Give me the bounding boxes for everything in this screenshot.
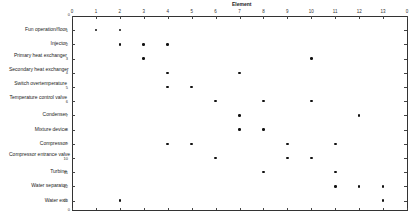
y-tick-mark [72, 201, 75, 202]
row-label-text: Temperature control valve [9, 95, 67, 101]
x-tick-label: 9 [280, 9, 294, 14]
data-point [262, 171, 265, 174]
x-bottom-tick-mark [120, 208, 121, 210]
x-tick-label: 12 [352, 9, 366, 14]
data-point [166, 72, 169, 75]
y-right-tick-mark [404, 172, 407, 173]
x-bottom-tick-mark [263, 208, 264, 210]
row-label-text: Primary heat exchanger [9, 53, 67, 59]
x-tick-label: 13 [376, 9, 390, 14]
data-point [310, 100, 313, 103]
x-tick-mark [263, 16, 264, 19]
row-label: Secondary heat exchanger [9, 67, 67, 73]
data-point [119, 29, 122, 32]
data-point [119, 199, 122, 202]
data-point [142, 43, 145, 46]
dependency-scatter-chart: Element 0123456789101112130 Fun operatio… [0, 0, 411, 218]
data-point [214, 100, 217, 103]
row-index: 2 [60, 42, 68, 47]
x-bottom-tick-mark [192, 208, 193, 210]
row-index: 8 [60, 127, 68, 132]
y-top-label: 0 [62, 12, 70, 17]
x-tick-mark [216, 16, 217, 19]
x-tick-label: 7 [233, 9, 247, 14]
data-point [95, 29, 98, 32]
row-label-text: Secondary heat exchanger [9, 67, 67, 73]
data-point [334, 171, 337, 174]
data-point [334, 143, 337, 146]
y-right-tick-mark [404, 201, 407, 202]
row-label: Compressor entrance valve [9, 152, 67, 158]
data-point [166, 143, 169, 146]
y-tick-mark [72, 172, 75, 173]
y-tick-mark [72, 144, 75, 145]
row-index: 11 [60, 170, 68, 175]
y-right-tick-mark [404, 130, 407, 131]
x-bottom-tick-mark [359, 208, 360, 210]
y-right-tick-mark [404, 144, 407, 145]
data-point [190, 143, 193, 146]
row-index: 7 [60, 113, 68, 118]
y-right-tick-mark [404, 30, 407, 31]
y-tick-mark [72, 101, 75, 102]
x-tick-mark [407, 16, 408, 19]
row-index: 5 [60, 85, 68, 90]
x-tick-mark [144, 16, 145, 19]
row-label: Primary heat exchanger [9, 53, 67, 59]
row-index: 1 [60, 28, 68, 33]
row-label-text: Switch overtemperature [9, 81, 67, 87]
x-bottom-tick-mark [383, 208, 384, 210]
data-point [358, 185, 361, 188]
data-point [119, 43, 122, 46]
x-tick-label: 5 [185, 9, 199, 14]
x-tick-label: 1 [89, 9, 103, 14]
x-tick-label: 11 [328, 9, 342, 14]
data-point [166, 43, 169, 46]
y-bottom-label: 0 [62, 207, 70, 212]
data-point [190, 86, 193, 89]
x-tick-mark [287, 16, 288, 19]
y-tick-mark [72, 158, 75, 159]
x-tick-mark [359, 16, 360, 19]
bottom-axis [72, 210, 408, 211]
row-label: Switch overtemperature [9, 81, 67, 87]
x-bottom-tick-mark [96, 208, 97, 210]
y-right-tick-mark [404, 115, 407, 116]
row-label-text: Compressor entrance valve [9, 152, 67, 158]
x-tick-mark [311, 16, 312, 19]
chart-title: Element [232, 1, 251, 7]
data-point [238, 72, 241, 75]
y-tick-mark [72, 59, 75, 60]
x-bottom-tick-mark [287, 208, 288, 210]
row-index: 9 [60, 141, 68, 146]
x-bottom-tick-mark [311, 208, 312, 210]
y-tick-mark [72, 73, 75, 74]
data-point [382, 199, 385, 202]
y-tick-mark [72, 115, 75, 116]
y-right-tick-mark [404, 158, 407, 159]
data-point [286, 143, 289, 146]
row-index: 3 [60, 56, 68, 61]
x-tick-mark [72, 16, 73, 19]
data-point [238, 114, 241, 117]
x-bottom-tick-mark [72, 208, 73, 210]
row-index: 10 [60, 156, 68, 161]
x-bottom-tick-mark [407, 208, 408, 210]
x-bottom-tick-mark [168, 208, 169, 210]
data-point [238, 128, 241, 131]
x-tick-mark [192, 16, 193, 19]
data-point [310, 157, 313, 160]
x-tick-mark [240, 16, 241, 19]
row-label: Temperature control valve [9, 95, 67, 101]
data-point [262, 100, 265, 103]
x-tick-label: 10 [304, 9, 318, 14]
y-tick-mark [72, 87, 75, 88]
x-tick-mark [335, 16, 336, 19]
y-tick-mark [72, 44, 75, 45]
x-bottom-tick-mark [335, 208, 336, 210]
data-point [262, 128, 265, 131]
y-tick-mark [72, 30, 75, 31]
x-tick-label: 0 [400, 9, 411, 14]
data-point [334, 185, 337, 188]
x-tick-label: 3 [137, 9, 151, 14]
